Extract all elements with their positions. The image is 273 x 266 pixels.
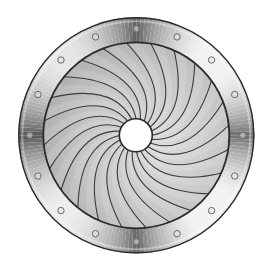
bolt-hole-icon xyxy=(58,57,64,63)
bolt-hole-icon xyxy=(92,230,98,236)
bolt-hole-icon xyxy=(174,34,180,40)
bolt-hole-icon xyxy=(133,239,139,245)
bolt-hole-icon xyxy=(208,207,214,213)
bolt-hole-icon xyxy=(92,34,98,40)
bolt-hole-icon xyxy=(27,132,33,138)
aperture-opening xyxy=(119,119,152,152)
aperture-hole xyxy=(119,119,152,152)
bolt-hole-icon xyxy=(231,91,237,97)
bolt-hole-icon xyxy=(231,173,237,179)
bolt-hole-icon xyxy=(240,132,246,138)
bolt-hole-icon xyxy=(35,91,41,97)
bolt-hole-icon xyxy=(58,207,64,213)
iris-diaphragm-illustration xyxy=(0,0,273,266)
bolt-hole-icon xyxy=(35,173,41,179)
iris-diaphragm-figure: Iris diaphragm xyxy=(0,0,273,266)
bolt-hole-icon xyxy=(174,230,180,236)
bolt-hole-icon xyxy=(133,26,139,32)
bolt-hole-icon xyxy=(208,57,214,63)
